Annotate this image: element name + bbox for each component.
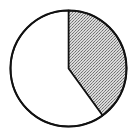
pie-chart [0,0,135,130]
